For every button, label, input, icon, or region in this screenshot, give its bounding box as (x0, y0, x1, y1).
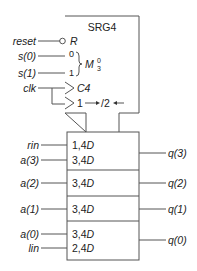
s1-label: s(1) (18, 67, 36, 79)
brace-icon (76, 52, 82, 76)
q2-label: q(2) (168, 177, 187, 189)
a1-label: a(1) (20, 203, 39, 215)
reset-qualifier: R (70, 35, 78, 47)
rin-label: rin (27, 139, 39, 151)
cell2-line1: 3,4D (72, 177, 95, 189)
control-block-outline (65, 16, 139, 132)
cell0-line2: 2,4D (72, 242, 95, 254)
cell3-line2: 3,4D (72, 154, 95, 166)
mode-input-0: 0 (69, 49, 74, 59)
a3-label: a(3) (20, 154, 39, 166)
block-title: SRG4 (88, 21, 117, 33)
q1-label: q(1) (168, 203, 187, 215)
shift-label-right: /2 (101, 97, 110, 109)
mode-subscript: 3 (97, 65, 101, 72)
clock-triangle-icon (65, 82, 74, 94)
clk-label: clk (23, 82, 37, 94)
shift-label-left: 1 (77, 97, 83, 109)
q0-label: q(0) (168, 234, 187, 246)
arrow-right-icon (96, 101, 100, 105)
clock-triangle-icon-2 (65, 97, 74, 109)
clock-label: C4 (77, 82, 91, 94)
cell1-line1: 3,4D (72, 203, 95, 215)
arrow-left-icon (113, 101, 117, 105)
q3-label: q(3) (168, 147, 187, 159)
mode-superscript: 0 (97, 57, 101, 64)
a2-label: a(2) (20, 177, 39, 189)
reset-label: reset (13, 35, 37, 47)
a0-label: a(0) (20, 228, 39, 240)
cell0-line1: 3,4D (72, 228, 95, 240)
mode-input-1: 1 (69, 68, 74, 78)
s0-label: s(0) (18, 50, 36, 62)
lin-label: lin (28, 242, 39, 254)
shift-register-diagram: SRG4 reset R s(0) 0 s(1) 1 M 0 3 clk C4 … (0, 0, 197, 271)
clk-branch-wire (52, 88, 65, 104)
mode-label: M (85, 58, 94, 70)
inversion-bubble-icon (60, 38, 66, 44)
cell3-line1: 1,4D (72, 139, 95, 151)
